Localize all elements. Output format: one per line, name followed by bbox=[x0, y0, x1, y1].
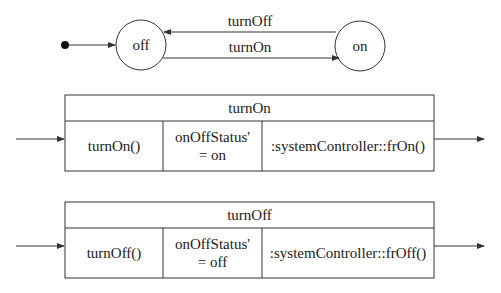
postcondition-line-2: = off bbox=[198, 253, 227, 271]
box-cell-postcondition: onOffStatus' = off bbox=[163, 228, 262, 278]
box-cell-action: :systemController::frOff() bbox=[262, 228, 434, 278]
box-cell-operation: turnOff() bbox=[65, 228, 163, 278]
box-cell-operation: turnOn() bbox=[65, 121, 163, 171]
box-title: turnOff bbox=[65, 202, 434, 228]
transition-turnoff-label: turnOff bbox=[228, 13, 273, 29]
state-machine: off on turnOff turnOn bbox=[61, 13, 385, 71]
transition-turnon-label: turnOn bbox=[229, 39, 272, 55]
postcondition-line-2: = on bbox=[199, 146, 226, 164]
postcondition-line-1: onOffStatus' bbox=[175, 235, 250, 253]
state-on-label: on bbox=[353, 38, 369, 54]
box-cell-postcondition: onOffStatus' = on bbox=[163, 121, 262, 171]
box-title: turnOn bbox=[65, 95, 434, 121]
initial-state-dot bbox=[61, 41, 69, 49]
box-cell-action: :systemController::frOn() bbox=[262, 121, 434, 171]
state-off-label: off bbox=[132, 37, 149, 53]
postcondition-line-1: onOffStatus' bbox=[175, 128, 250, 146]
